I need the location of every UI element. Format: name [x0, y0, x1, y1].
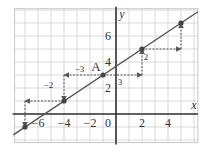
line-graph: −6−4−2024246xyA32−3−2 [0, 0, 206, 152]
x-tick-label: 4 [165, 116, 171, 130]
y-axis-label: y [118, 7, 125, 21]
y-tick-label: 4 [105, 55, 111, 69]
x-tick-label: 0 [105, 116, 111, 130]
y-tick-label: 2 [105, 81, 111, 95]
x-tick-label: −6 [32, 116, 45, 130]
x-tick-label: −4 [58, 116, 71, 130]
step-label: −2 [44, 80, 54, 90]
y-tick-label: 6 [105, 29, 111, 43]
data-point [178, 20, 183, 25]
x-tick-label: −2 [84, 116, 97, 130]
point-label-a: A [91, 59, 101, 74]
data-point [22, 124, 27, 129]
x-axis-label: x [190, 98, 197, 112]
step-label: −3 [75, 64, 85, 74]
x-tick-label: 2 [139, 116, 145, 130]
data-point [100, 72, 105, 77]
step-label: 3 [118, 77, 123, 87]
step-label: 2 [144, 52, 149, 62]
data-point [61, 98, 66, 103]
